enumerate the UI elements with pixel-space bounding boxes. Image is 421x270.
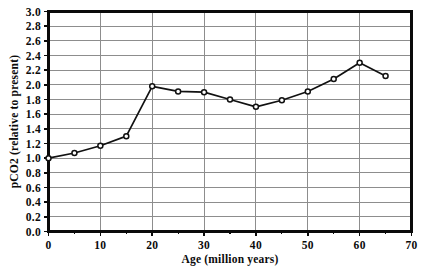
y-tick-label: 0.6 [26,182,41,194]
y-tick-label: 2.0 [26,79,41,91]
y-tick-label: 0.0 [26,226,41,238]
y-tick-label: 2.4 [26,50,41,62]
x-tick-labels: 010203040506070 [45,239,417,251]
y-tick-label: 2.2 [26,64,41,76]
x-tick-label: 20 [146,239,158,251]
x-tick-label: 10 [94,239,106,251]
data-point-marker [46,156,51,161]
x-tick-label: 60 [354,239,366,251]
data-point-marker [383,74,388,79]
y-tick-label: 0.2 [26,211,41,223]
data-point-marker [279,98,284,103]
y-axis-title: pCO2 (relative to present) [8,55,21,189]
y-tick-label: 1.2 [26,138,41,150]
data-point-marker [124,134,129,139]
y-tick-label: 3.0 [26,6,41,18]
x-tick-label: 70 [405,239,417,251]
y-tick-label: 1.8 [26,94,41,106]
gridlines [49,12,412,232]
y-tick-label: 1.6 [26,108,41,120]
y-tick-label: 1.0 [26,152,41,164]
x-tick-label: 40 [250,239,262,251]
data-point-marker [150,84,155,89]
data-point-marker [176,89,181,94]
x-tick-label: 50 [302,239,314,251]
x-tick-label: 0 [45,239,51,251]
data-point-marker [253,104,258,109]
y-tick-label: 0.8 [26,167,41,179]
data-point-marker [202,90,207,95]
pco2-vs-age-line-chart: 0.00.20.40.60.81.01.21.41.61.82.02.22.42… [0,0,421,270]
data-point-marker [228,97,233,102]
y-tick-label: 2.8 [26,20,41,32]
plot-frame [49,12,412,232]
data-point-marker [357,60,362,65]
x-axis-title: Age (million years) [181,253,278,266]
x-tick-label: 30 [198,239,210,251]
data-point-marker [72,151,77,156]
chart-figure: 0.00.20.40.60.81.01.21.41.61.82.02.22.42… [0,0,421,270]
y-tick-labels: 0.00.20.40.60.81.01.21.41.61.82.02.22.42… [26,6,41,238]
y-tick-label: 2.6 [26,35,41,47]
data-series [46,60,388,160]
y-tick-label: 0.4 [26,196,41,208]
data-point-marker [331,76,336,81]
data-point-marker [305,89,310,94]
y-tick-label: 1.4 [26,123,41,135]
data-point-marker [98,143,103,148]
